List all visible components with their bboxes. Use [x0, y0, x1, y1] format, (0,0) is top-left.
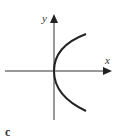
- x-axis-arrow-icon: [103, 67, 112, 75]
- figure-caption: c: [5, 125, 10, 139]
- y-axis-label: y: [42, 12, 47, 24]
- curve: [54, 34, 86, 111]
- x-axis-label: x: [105, 54, 110, 66]
- coordinate-diagram: [0, 0, 122, 139]
- y-axis-arrow-icon: [50, 14, 58, 23]
